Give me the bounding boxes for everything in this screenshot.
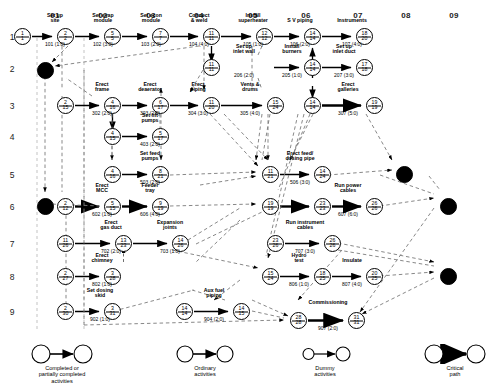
activity-name: Set upinlet duct <box>314 44 374 55</box>
event-node-milestone[interactable] <box>37 198 54 215</box>
activity-code-duration: 205 (1:0) <box>262 73 322 78</box>
row-header: 2 <box>6 64 18 74</box>
node-latest-time: 11 <box>204 67 219 72</box>
node-latest-time: 18 <box>357 67 372 72</box>
node-circle: 1919 <box>262 198 279 215</box>
node-latest-time: 21 <box>263 174 278 179</box>
column-header: 09 <box>442 11 466 20</box>
event-node[interactable]: 1919 <box>262 198 279 215</box>
activity-name: Run instrumentcables <box>275 220 335 231</box>
activity-name: Run powercables <box>318 183 378 194</box>
node-latest-time: 14 <box>305 105 320 110</box>
node-latest-time: 24 <box>315 174 330 179</box>
legend-symbol-critical <box>400 344 490 364</box>
node-circle <box>396 166 413 183</box>
node-latest-time: 14 <box>305 67 320 72</box>
activity-name: Connect& weld <box>169 13 229 24</box>
node-latest-time: 31 <box>349 320 364 325</box>
activity-name: Instruments <box>322 18 382 23</box>
node-latest-time: 27 <box>58 276 73 281</box>
row-header: 7 <box>6 239 18 249</box>
activity-name: Installburners <box>262 44 322 55</box>
node-latest-time: 24 <box>263 276 278 281</box>
activity-name: Erectchimney <box>72 253 132 264</box>
legend-symbol-ordinary <box>150 344 260 364</box>
legend-symbol-dummy <box>270 344 380 364</box>
event-node-milestone[interactable] <box>440 268 457 285</box>
activity-name: Expansionjoints <box>140 220 200 231</box>
node-latest-time: 26 <box>325 243 340 248</box>
node-circle: 1126 <box>57 235 74 252</box>
row-header: 8 <box>6 272 18 282</box>
activity-code-duration: 305 (4:0) <box>220 111 280 116</box>
node-latest-time: 25 <box>367 276 382 281</box>
activity-code-duration: 907 (2:0) <box>298 326 358 331</box>
activity-code-duration: 207 (3:0) <box>314 73 374 78</box>
node-circle: 416 <box>104 166 121 183</box>
legend-caption: Ordinaryactivities <box>150 365 260 378</box>
activity-name: Erectgas duct <box>81 220 141 231</box>
node-circle <box>440 268 457 285</box>
activity-name: Set liftpumps <box>120 113 180 124</box>
activity-name: Feedertray <box>120 183 180 194</box>
column-header: 08 <box>394 11 418 20</box>
event-node-milestone[interactable] <box>37 62 54 79</box>
legend-item-completed: Completed orpartially completedactivitie… <box>7 344 117 382</box>
node-latest-time: 16 <box>105 174 120 179</box>
legend-item-ordinary: Ordinaryactivities <box>150 344 260 382</box>
row-header: 4 <box>6 132 18 142</box>
event-node[interactable]: 415 <box>104 128 121 145</box>
activity-name: Hydrotest <box>269 253 329 264</box>
row-header: 5 <box>6 170 18 180</box>
node-latest-time: 26 <box>367 206 382 211</box>
legend-caption: Criticalpath <box>400 365 490 378</box>
activity-name: Vents &drums <box>220 82 280 93</box>
node-latest-time: 14 <box>177 311 192 316</box>
activity-name: Set dosingskid <box>70 288 130 299</box>
event-node[interactable]: 416 <box>104 166 121 183</box>
activity-name: Set feedpumps <box>120 151 180 162</box>
activity-code-duration: 403 (2:0) <box>120 142 180 147</box>
node-latest-time: 30 <box>58 311 73 316</box>
node-circle: 415 <box>104 128 121 145</box>
legend-caption: Dummyactivities <box>270 365 380 378</box>
activity-name: Aux fuelpiping <box>184 288 244 299</box>
activity-code-duration: 807 (4:0) <box>322 282 382 287</box>
event-node[interactable]: 1126 <box>57 235 74 252</box>
activity-name: Erectpiping <box>168 82 228 93</box>
activity-name: Commissioning <box>298 300 358 305</box>
node-latest-time: 19 <box>263 206 278 211</box>
activity-code-duration: 904 (2:0) <box>184 317 244 322</box>
node-latest-time: 15 <box>58 105 73 110</box>
node-latest-time: 25 <box>315 276 330 281</box>
row-header: 9 <box>6 307 18 317</box>
activity-name: Erectgalleries <box>318 82 378 93</box>
node-latest-time: 15 <box>105 136 120 141</box>
activity-code-duration: 703 (1:0) <box>140 249 200 254</box>
activity-name: Erect feed/dosing pipe <box>270 151 330 162</box>
event-node-milestone[interactable] <box>396 166 413 183</box>
activity-name: Insulate <box>322 258 382 263</box>
node-latest-time: 26 <box>58 243 73 248</box>
activity-code-duration: 902 (1:0) <box>70 317 130 322</box>
row-header: 6 <box>6 202 18 212</box>
activity-code-duration: 806 (1:0) <box>269 282 329 287</box>
node-latest-time: 1 <box>15 36 30 41</box>
activity-code-duration: 607 (6:0) <box>318 212 378 217</box>
node-latest-time: 23 <box>315 206 330 211</box>
node-latest-time: 12 <box>58 206 73 211</box>
legend-caption: Completed orpartially completedactivitie… <box>7 365 117 383</box>
node-circle <box>440 198 457 215</box>
legend-item-dummy: Dummyactivities <box>270 344 380 382</box>
node-circle <box>37 62 54 79</box>
activity-code-duration: 307 (5:0) <box>318 111 378 116</box>
activity-name: S V piping <box>270 18 330 23</box>
node-latest-time: 24 <box>268 105 283 110</box>
node-latest-time: 19 <box>367 105 382 110</box>
legend-item-critical: Criticalpath <box>400 344 490 382</box>
legend-symbol-completed <box>7 344 117 364</box>
node-latest-time: 15 <box>234 311 249 316</box>
row-header: 3 <box>6 101 18 111</box>
event-node-milestone[interactable] <box>440 198 457 215</box>
